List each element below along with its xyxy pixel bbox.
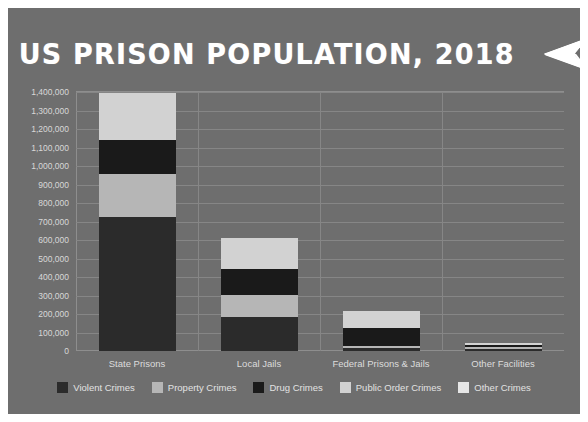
legend-item[interactable]: Violent Crimes [57, 382, 135, 393]
x-axis-tick-label: Local Jails [237, 358, 281, 369]
legend-label: Violent Crimes [73, 382, 135, 393]
bar-segment[interactable] [99, 174, 176, 217]
y-axis-tick-label: 1,200,000 [31, 124, 69, 134]
y-axis-tick-label: 1,100,000 [31, 143, 69, 153]
bar-segment[interactable] [343, 348, 420, 351]
stacked-bar[interactable] [99, 93, 176, 351]
legend-label: Drug Crimes [269, 382, 322, 393]
y-axis-tick-label: 600,000 [38, 235, 69, 245]
bar-segment[interactable] [221, 269, 298, 295]
x-axis-tick-label: Federal Prisons & Jails [332, 358, 429, 369]
legend-swatch [57, 382, 68, 393]
stacked-bar[interactable] [343, 311, 420, 351]
y-axis-tick-label: 300,000 [38, 291, 69, 301]
legend-label: Other Crimes [474, 382, 530, 393]
page-title: US PRISON POPULATION, 2018 [19, 37, 515, 71]
bar-segment[interactable] [99, 93, 176, 140]
y-axis-tick-label: 1,000,000 [31, 161, 69, 171]
gridline-vertical [198, 92, 199, 351]
y-axis-tick-label: 400,000 [38, 272, 69, 282]
legend-item[interactable]: Property Crimes [152, 382, 237, 393]
legend-item[interactable]: Public Order Crimes [340, 382, 442, 393]
chart-legend: Violent CrimesProperty CrimesDrug Crimes… [8, 382, 580, 393]
chart-title-row: US PRISON POPULATION, 2018 [8, 30, 580, 78]
bar-segment[interactable] [221, 295, 298, 317]
y-axis-tick-label: 0 [64, 346, 69, 356]
y-axis-tick-label: 900,000 [38, 180, 69, 190]
bar-segment[interactable] [221, 317, 298, 351]
bar-segment[interactable] [99, 217, 176, 351]
y-axis-tick-label: 1,400,000 [31, 87, 69, 97]
legend-label: Public Order Crimes [356, 382, 442, 393]
legend-swatch [340, 382, 351, 393]
legend-label: Property Crimes [168, 382, 237, 393]
y-axis-tick-label: 800,000 [38, 198, 69, 208]
gridline-vertical [442, 92, 443, 351]
legend-item[interactable]: Other Crimes [458, 382, 530, 393]
x-axis-tick-label: State Prisons [109, 358, 166, 369]
y-axis-tick-label: 700,000 [38, 217, 69, 227]
legend-item[interactable]: Drug Crimes [253, 382, 322, 393]
bar-segment[interactable] [99, 140, 176, 174]
bar-segment[interactable] [343, 328, 420, 347]
legend-swatch [458, 382, 469, 393]
gridline-vertical [320, 92, 321, 351]
legend-swatch [253, 382, 264, 393]
y-axis-tick-label: 1,300,000 [31, 106, 69, 116]
bar-segment[interactable] [465, 349, 542, 351]
chart-figure: US PRISON POPULATION, 2018 1,400,0001,30… [8, 8, 580, 414]
plot-area: 1,400,0001,300,0001,200,0001,100,0001,00… [76, 91, 564, 351]
y-axis-tick-label: 100,000 [38, 328, 69, 338]
legend-swatch [152, 382, 163, 393]
y-axis-tick-label: 500,000 [38, 254, 69, 264]
bar-segment[interactable] [343, 311, 420, 328]
x-axis-tick-label: Other Facilities [471, 358, 534, 369]
bar-segment[interactable] [221, 238, 298, 269]
left-arrow-dart-icon [544, 37, 580, 71]
stacked-bar[interactable] [221, 238, 298, 351]
y-axis-tick-label: 200,000 [38, 309, 69, 319]
stacked-bar[interactable] [465, 343, 542, 351]
